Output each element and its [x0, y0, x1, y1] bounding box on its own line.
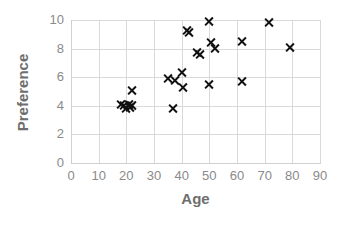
data-point — [126, 100, 137, 111]
gridline-vertical — [265, 20, 266, 163]
data-point — [204, 79, 215, 90]
y-tick-label: 4 — [26, 98, 64, 114]
x-tick-label: 10 — [84, 168, 114, 184]
data-point — [263, 17, 274, 28]
x-tick-label: 60 — [222, 168, 252, 184]
x-tick-label: 90 — [305, 168, 335, 184]
scatter-chart: Age Preference 0102030405060708090024681… — [0, 0, 347, 227]
y-tick-label: 8 — [26, 41, 64, 57]
gridline-horizontal — [71, 106, 320, 107]
x-tick-label: 40 — [167, 168, 197, 184]
y-tick-label: 2 — [26, 126, 64, 142]
gridline-vertical — [320, 20, 321, 163]
data-point — [237, 76, 248, 87]
y-tick-label: 0 — [26, 155, 64, 171]
y-tick-label: 6 — [26, 69, 64, 85]
data-point — [168, 103, 179, 114]
data-point — [237, 36, 248, 47]
x-tick-label: 30 — [139, 168, 169, 184]
data-point — [183, 27, 194, 38]
data-point — [284, 42, 295, 53]
data-point — [178, 82, 189, 93]
data-point — [204, 16, 215, 27]
x-axis-line — [71, 163, 321, 164]
data-point — [126, 85, 137, 96]
x-axis-title: Age — [71, 190, 320, 207]
y-tick-label: 10 — [26, 12, 64, 28]
gridline-vertical — [154, 20, 155, 163]
x-tick-label: 50 — [194, 168, 224, 184]
y-axis-line — [71, 20, 72, 164]
x-tick-label: 80 — [277, 168, 307, 184]
data-point — [209, 43, 220, 54]
data-point — [176, 67, 187, 78]
gridline-horizontal — [71, 77, 320, 78]
plot-area — [71, 20, 320, 163]
data-point — [194, 49, 205, 60]
gridline-horizontal — [71, 134, 320, 135]
x-tick-label: 70 — [250, 168, 280, 184]
gridline-horizontal — [71, 20, 320, 21]
gridline-vertical — [99, 20, 100, 163]
x-tick-label: 20 — [111, 168, 141, 184]
